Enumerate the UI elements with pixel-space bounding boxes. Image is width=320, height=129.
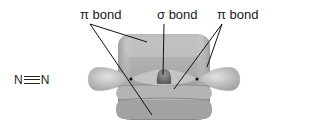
label-pi-bond-right: π bond xyxy=(217,8,259,21)
label-sigma-bond: σ bond xyxy=(157,8,198,21)
nitrogen-nucleus-left xyxy=(129,77,132,80)
nitrogen-nucleus-right xyxy=(195,77,198,80)
label-pi-bond-left: π bond xyxy=(80,8,122,21)
